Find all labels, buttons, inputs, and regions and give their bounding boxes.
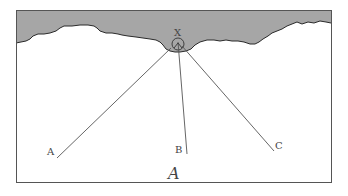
- ray-label-b: B: [175, 144, 182, 155]
- panel-label: A: [166, 164, 180, 183]
- ray-c: [182, 46, 274, 151]
- ray-label-c: C: [275, 140, 283, 151]
- diagram-figure: X A B C A: [0, 0, 348, 196]
- apex-label: X: [174, 27, 182, 38]
- ray-a: [57, 48, 171, 158]
- ray-b: [178, 42, 187, 154]
- ray-label-a: A: [46, 146, 55, 157]
